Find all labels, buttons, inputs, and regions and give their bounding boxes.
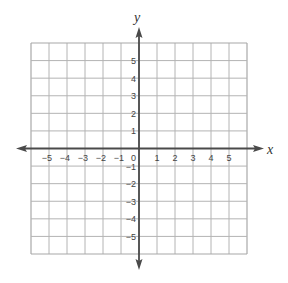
x-tick-label: −4 (60, 153, 70, 163)
axes (16, 27, 264, 270)
x-tick-label: −3 (78, 153, 88, 163)
y-tick-label: 2 (131, 109, 136, 119)
x-tick-label: 5 (226, 153, 231, 163)
x-tick-label: 1 (154, 153, 159, 163)
y-tick-label: 3 (131, 91, 136, 101)
x-tick-label: −2 (96, 153, 106, 163)
y-tick-label: −2 (126, 179, 136, 189)
y-tick-label: 5 (131, 56, 136, 66)
y-tick-label: −5 (126, 232, 136, 242)
x-tick-label: −5 (42, 153, 52, 163)
y-tick-label: −3 (126, 197, 136, 207)
y-tick-label: 4 (131, 74, 136, 84)
x-tick-label: 3 (190, 153, 195, 163)
y-tick-label: −1 (126, 162, 136, 172)
y-tick-label: 1 (131, 126, 136, 136)
x-tick-label: −1 (114, 153, 124, 163)
x-tick-label: 4 (208, 153, 213, 163)
x-axis-title: x (266, 142, 274, 157)
origin-label: 0 (131, 153, 136, 163)
coordinate-plane: −5−4−3−2−112345−5−4−3−2−112345 x y 0 (0, 0, 288, 283)
y-axis-title: y (132, 10, 141, 25)
y-tick-label: −4 (126, 214, 136, 224)
x-tick-label: 2 (172, 153, 177, 163)
